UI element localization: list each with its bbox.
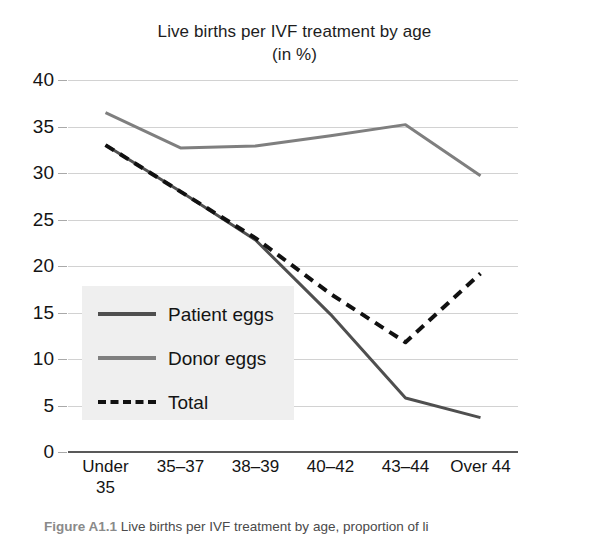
legend-item[interactable]: Patient eggs bbox=[98, 299, 274, 329]
legend-swatch-icon bbox=[98, 356, 156, 360]
figure-caption: Figure A1.1 Live births per IVF treatmen… bbox=[44, 519, 589, 537]
y-axis-tick-mark bbox=[58, 173, 67, 174]
x-axis-tick-label: 38–39 bbox=[218, 456, 293, 477]
figure-number: Figure A1.1 bbox=[44, 519, 117, 534]
y-axis-tick-label: 35 bbox=[10, 117, 54, 136]
x-axis-tick-label: Under 35 bbox=[68, 456, 143, 498]
x-axis-tick-label: 40–42 bbox=[293, 456, 368, 477]
y-axis-tick-mark bbox=[58, 80, 67, 81]
y-axis-tick-label: 40 bbox=[10, 70, 54, 89]
x-axis-tick-label: Over 44 bbox=[443, 456, 518, 477]
y-axis-tick-label: 30 bbox=[10, 163, 54, 182]
y-axis-tick-label: 5 bbox=[10, 396, 54, 415]
y-axis-tick-mark bbox=[58, 359, 67, 360]
y-axis-tick-label: 20 bbox=[10, 256, 54, 275]
chart-legend: Patient eggsDonor eggsTotal bbox=[82, 286, 294, 420]
legend-item[interactable]: Donor eggs bbox=[98, 343, 266, 373]
figure-caption-text: Live births per IVF treatment by age, pr… bbox=[121, 519, 429, 534]
y-axis-tick-label: 10 bbox=[10, 349, 54, 368]
y-axis-tick-mark bbox=[58, 127, 67, 128]
y-axis-tick-label: 25 bbox=[10, 210, 54, 229]
legend-swatch-icon bbox=[98, 312, 156, 316]
chart-title: Live births per IVF treatment by age (in… bbox=[0, 20, 589, 66]
legend-label: Patient eggs bbox=[168, 305, 274, 324]
y-axis-tick-mark bbox=[58, 266, 67, 267]
legend-label: Donor eggs bbox=[168, 349, 266, 368]
chart-title-subtitle: (in %) bbox=[0, 43, 589, 66]
figure-container: Live births per IVF treatment by age (in… bbox=[0, 0, 589, 537]
x-axis-tick-label: 35–37 bbox=[143, 456, 218, 477]
y-axis-tick-mark bbox=[58, 220, 67, 221]
legend-swatch-icon bbox=[98, 400, 156, 404]
legend-label: Total bbox=[168, 393, 208, 412]
y-axis-tick-mark bbox=[58, 313, 67, 314]
y-axis-tick-label: 0 bbox=[10, 442, 54, 461]
y-axis-tick-mark bbox=[58, 452, 67, 453]
legend-item[interactable]: Total bbox=[98, 387, 208, 417]
chart-title-main: Live births per IVF treatment by age bbox=[158, 22, 432, 41]
series-line bbox=[106, 113, 481, 176]
y-axis-tick-mark bbox=[58, 406, 67, 407]
x-axis-tick-label: 43–44 bbox=[368, 456, 443, 477]
y-axis-tick-label: 15 bbox=[10, 303, 54, 322]
